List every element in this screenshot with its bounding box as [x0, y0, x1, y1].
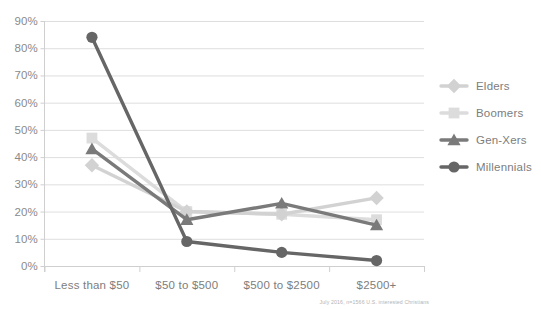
data-point-marker-circle: [371, 255, 382, 266]
legend-item-boomers[interactable]: Boomers: [441, 107, 523, 119]
x-axis-category-label: $500 to $2500: [244, 279, 320, 291]
data-point-marker-circle: [86, 32, 97, 43]
legend-label: Boomers: [476, 107, 523, 119]
line-chart: 0%10%20%30%40%50%60%70%80%90% Less than …: [0, 0, 541, 309]
y-axis-tick-label: 60%: [14, 97, 38, 109]
legend-label: Gen-Xers: [476, 134, 527, 146]
data-point-marker-circle: [181, 236, 192, 247]
x-axis-category-label: Less than $50: [55, 279, 130, 291]
y-axis-tick-label: 50%: [14, 124, 38, 136]
y-axis-tick-label: 40%: [14, 151, 38, 163]
legend-item-millennials[interactable]: Millennials: [441, 161, 532, 173]
data-point-marker-diamond: [369, 191, 383, 205]
data-point-marker-circle: [448, 161, 459, 172]
y-axis-tick-label: 90%: [14, 15, 38, 27]
data-point-marker-diamond: [447, 79, 461, 93]
legend-item-gen-xers[interactable]: Gen-Xers: [441, 134, 527, 146]
x-axis-category-label: $50 to $500: [155, 279, 218, 291]
series-millennials: [86, 32, 382, 266]
chart-container: 0%10%20%30%40%50%60%70%80%90% Less than …: [0, 0, 541, 309]
x-axis-category-label: $2500+: [357, 279, 397, 291]
y-axis-tick-label: 0%: [21, 260, 38, 272]
data-point-marker-diamond: [85, 158, 99, 172]
chart-legend: EldersBoomersGen-XersMillennials: [441, 79, 532, 173]
data-point-marker-circle: [276, 247, 287, 258]
y-axis-tick-label: 10%: [14, 233, 38, 245]
legend-label: Elders: [476, 80, 510, 92]
data-point-marker-square: [449, 108, 460, 119]
y-axis-tick-label: 70%: [14, 69, 38, 81]
y-axis-tick-label: 30%: [14, 178, 38, 190]
x-axis-category-labels: Less than $50$50 to $500$500 to $2500$25…: [55, 279, 397, 291]
data-point-marker-triangle: [85, 143, 98, 155]
legend-item-elders[interactable]: Elders: [441, 79, 510, 93]
legend-label: Millennials: [476, 161, 532, 173]
source-note: July 2016, n=1566 U.S. interested Christ…: [320, 299, 429, 305]
data-point-marker-square: [87, 133, 98, 144]
series-layer: [85, 32, 384, 266]
y-axis-tick-labels: 0%10%20%30%40%50%60%70%80%90%: [14, 15, 44, 272]
y-axis-tick-label: 20%: [14, 206, 38, 218]
series-line: [92, 37, 377, 260]
series-gen-xers: [85, 143, 383, 231]
y-axis-tick-label: 80%: [14, 42, 38, 54]
